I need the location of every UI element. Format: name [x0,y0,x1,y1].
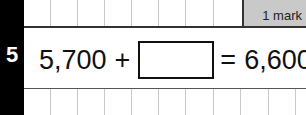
question-number: 5 [0,40,24,70]
result-value: 6,600 [244,45,306,76]
marks-box: 1 mark [242,0,306,27]
equation: 5,700 + = 6,600 [39,42,306,78]
divider-top [24,26,306,28]
marks-label: 1 mark [262,8,302,23]
working-grid-bottom [24,89,306,115]
plus-sign: + [115,45,131,76]
left-operand: 5,700 [39,45,107,76]
answer-box[interactable] [138,41,214,79]
equals-sign: = [220,45,236,76]
